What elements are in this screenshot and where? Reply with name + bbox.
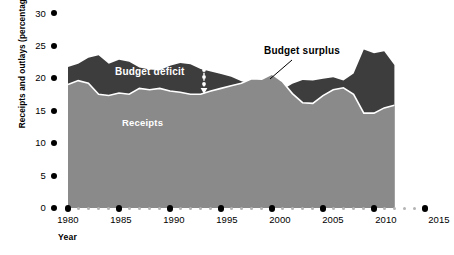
x-tick-dot-major bbox=[65, 205, 72, 212]
x-tick-dot-minor bbox=[393, 207, 396, 210]
x-tick-dot-minor bbox=[332, 207, 335, 210]
x-tick-dot-major bbox=[167, 205, 174, 212]
annotation-budget-deficit: Budget deficit bbox=[115, 66, 184, 77]
x-tick-label-2015: 2015 bbox=[422, 214, 454, 225]
x-tick-dot-minor bbox=[291, 207, 294, 210]
x-tick-label-1985: 1985 bbox=[104, 214, 138, 225]
x-tick-label-1990: 1990 bbox=[157, 214, 191, 225]
annotation-receipts: Receipts bbox=[122, 117, 163, 128]
annotation-outlays: Outlays bbox=[119, 36, 157, 47]
x-tick-dot-major bbox=[371, 205, 378, 212]
annotation-budget-surplus: Budget surplus bbox=[264, 45, 340, 56]
x-tick-label-1980: 1980 bbox=[51, 214, 85, 225]
x-tick-dot-minor bbox=[230, 207, 233, 210]
x-tick-dot-minor bbox=[342, 207, 345, 210]
x-tick-label-2000: 2000 bbox=[263, 214, 297, 225]
x-tick-dot-minor bbox=[240, 207, 243, 210]
x-tick-dot-major bbox=[320, 205, 327, 212]
x-tick-dot-minor bbox=[281, 207, 284, 210]
x-tick-dot-minor bbox=[87, 207, 90, 210]
x-tick-label-2010: 2010 bbox=[369, 214, 403, 225]
x-tick-dot-major bbox=[218, 205, 225, 212]
budget-surplus-leader-line bbox=[270, 60, 292, 79]
x-tick-label-1995: 1995 bbox=[210, 214, 244, 225]
x-tick-dot-minor bbox=[77, 207, 80, 210]
x-tick-dot-minor bbox=[138, 207, 141, 210]
x-tick-dot-major bbox=[269, 205, 276, 212]
x-tick-label-2005: 2005 bbox=[316, 214, 350, 225]
x-axis-title: Year bbox=[58, 232, 77, 242]
x-tick-dot-minor bbox=[189, 207, 192, 210]
x-tick-dot-major bbox=[422, 205, 429, 212]
x-tick-dot-major bbox=[116, 205, 123, 212]
x-tick-dot-minor bbox=[128, 207, 131, 210]
x-tick-dot-minor bbox=[383, 207, 386, 210]
x-tick-dot-minor bbox=[179, 207, 182, 210]
